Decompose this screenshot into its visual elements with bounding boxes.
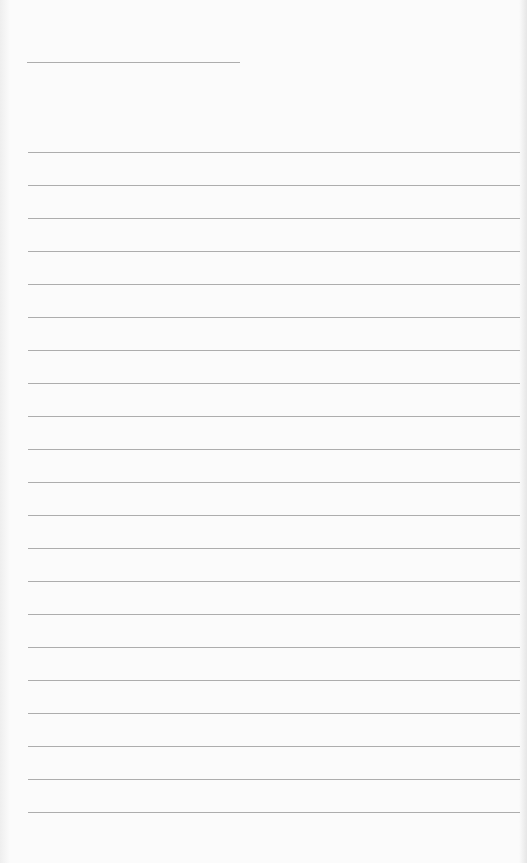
ruled-line	[28, 152, 520, 153]
ruled-line	[28, 713, 520, 714]
ruled-line	[28, 548, 520, 549]
ruled-line	[28, 812, 520, 813]
ruled-line	[28, 614, 520, 615]
ruled-line	[28, 218, 520, 219]
ruled-line	[28, 482, 520, 483]
ruled-line	[28, 449, 520, 450]
ruled-line	[28, 416, 520, 417]
lined-paper-page	[0, 0, 527, 863]
ruled-line	[28, 350, 520, 351]
ruled-line	[28, 647, 520, 648]
ruled-line	[28, 746, 520, 747]
ruled-line	[28, 284, 520, 285]
ruled-line	[28, 779, 520, 780]
ruled-line	[28, 680, 520, 681]
ruled-line	[28, 515, 520, 516]
ruled-line	[28, 251, 520, 252]
ruled-line	[28, 581, 520, 582]
ruled-line	[28, 383, 520, 384]
ruled-line	[28, 317, 520, 318]
ruled-lines	[0, 0, 527, 863]
ruled-line	[28, 185, 520, 186]
